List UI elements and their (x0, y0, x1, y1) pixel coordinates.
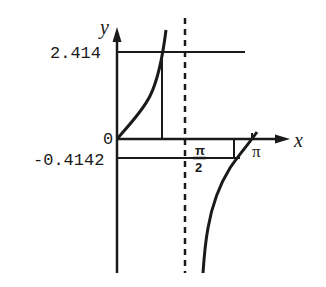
y-tick-label-neg04142: -0.4142 (33, 151, 104, 170)
curve-left-branch (117, 30, 166, 139)
x-tick-label-pi-half-num: π (195, 143, 205, 158)
function-graph: y x 0 2.414 -0.4142 π 2 π (0, 0, 326, 287)
y-axis-label: y (98, 16, 109, 39)
y-axis-arrow-icon (113, 27, 122, 42)
curve-right-branch (203, 132, 257, 273)
x-axis-label: x (293, 129, 303, 151)
y-tick-label-2414: 2.414 (50, 44, 101, 63)
origin-label: 0 (103, 130, 113, 149)
x-tick-label-pi: π (252, 142, 261, 161)
x-tick-label-pi-half-den: 2 (195, 160, 202, 175)
x-axis-arrow-icon (275, 135, 290, 144)
